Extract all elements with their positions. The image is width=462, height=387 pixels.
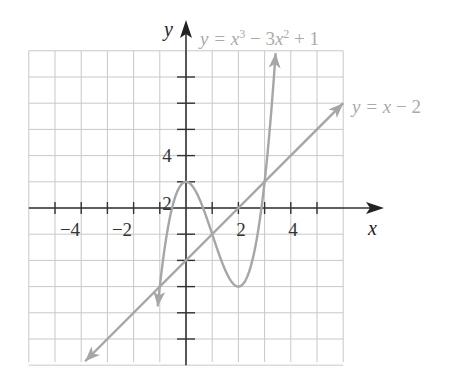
y-tick-label-4: 4	[162, 145, 172, 166]
curves	[81, 53, 348, 366]
x-tick-label-4: 4	[288, 219, 298, 240]
x-axis-label: x	[367, 217, 377, 239]
y-axis-label: y	[162, 18, 173, 41]
x-tick-label-2: 2	[236, 219, 246, 240]
x-tick-label-neg4: −4	[60, 219, 81, 240]
curve-equation-label: y = x3 − 3x2 + 1	[198, 27, 319, 49]
x-tick-label-neg2: −2	[112, 219, 132, 240]
line-equation-label: y = x − 2	[350, 96, 421, 117]
cubic-curve	[158, 53, 276, 306]
axes	[29, 20, 384, 365]
y-tick-label-2: 2	[162, 193, 172, 214]
graph-canvas: y x y = x3 − 3x2 + 1 y = x − 2 −4 −2 2 4…	[0, 0, 462, 387]
